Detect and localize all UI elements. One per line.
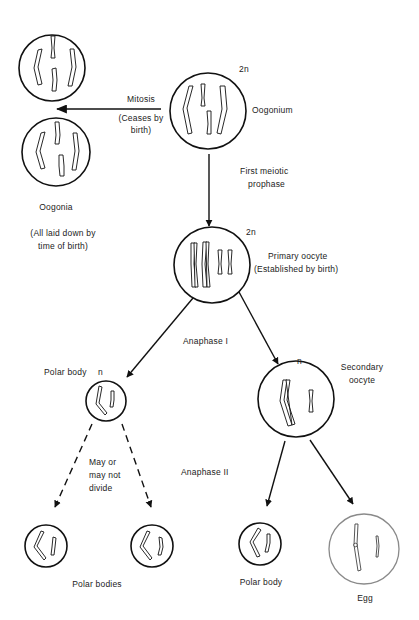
oogonium-label: Oogonium bbox=[252, 104, 293, 117]
secondary-oocyte-ploidy: n bbox=[297, 355, 302, 368]
egg-label: Egg bbox=[357, 592, 373, 605]
oogonia-cell-bottom bbox=[22, 118, 90, 186]
may-not-divide-line1: May or bbox=[89, 456, 116, 469]
mitosis-label: Mitosis bbox=[127, 93, 155, 106]
chromosome-icon bbox=[140, 531, 163, 560]
primary-oocyte-note: (Established by birth) bbox=[254, 263, 338, 276]
polar-body-cell-right bbox=[131, 525, 173, 567]
primary-oocyte-ploidy: 2n bbox=[246, 226, 256, 239]
oogonia-note-line1: (All laid down by bbox=[30, 227, 95, 240]
meiotic-prophase-label-line2: prophase bbox=[248, 178, 285, 191]
chromosome-icon bbox=[191, 242, 232, 287]
chromosome-icon bbox=[183, 84, 227, 134]
anaphase-2-arrow-right bbox=[310, 440, 353, 504]
polar-bodies-label: Polar bodies bbox=[72, 578, 122, 591]
primary-oocyte-label: Primary oocyte bbox=[268, 250, 327, 263]
anaphase-1-label: Anaphase I bbox=[183, 335, 228, 348]
chromosome-icon bbox=[250, 528, 270, 557]
may-not-divide-line2: may not bbox=[89, 469, 121, 482]
oogonia-note-line2: time of birth) bbox=[38, 240, 88, 253]
anaphase-2-label: Anaphase II bbox=[181, 466, 229, 479]
polar-body-division-arrow-left bbox=[55, 424, 92, 507]
chromosome-icon bbox=[34, 531, 56, 560]
secondary-oocyte-label-line2: oocyte bbox=[349, 374, 375, 387]
chromosome-icon bbox=[280, 380, 313, 426]
oogonium-ploidy: 2n bbox=[239, 63, 249, 76]
second-polar-body-cell bbox=[239, 523, 281, 565]
oogonia-cell-top bbox=[19, 35, 85, 101]
anaphase-1-arrow-right bbox=[239, 292, 278, 364]
chromosome-icon bbox=[96, 386, 114, 415]
oogonia-label: Oogonia bbox=[39, 201, 73, 214]
anaphase-2-arrow-left bbox=[267, 441, 285, 506]
may-not-divide-line3: divide bbox=[89, 482, 112, 495]
chromosome-icon bbox=[354, 524, 379, 571]
secondary-oocyte-cell bbox=[258, 361, 334, 437]
primary-oocyte-cell bbox=[174, 227, 250, 303]
oogenesis-diagram bbox=[0, 0, 419, 620]
chromosome-icon bbox=[36, 122, 79, 176]
mitosis-note-line2: birth) bbox=[131, 124, 152, 137]
polar-body-division-arrow-right bbox=[122, 424, 151, 507]
second-polar-body-label: Polar body bbox=[240, 576, 283, 589]
oogonium-cell bbox=[170, 73, 246, 149]
first-polar-body-ploidy: n bbox=[98, 366, 103, 379]
secondary-oocyte-label-line1: Secondary bbox=[341, 361, 383, 374]
chromosome-icon bbox=[34, 36, 76, 91]
first-polar-body-cell bbox=[86, 381, 126, 421]
egg-cell bbox=[329, 514, 399, 584]
meiotic-prophase-label-line1: First meiotic bbox=[240, 165, 288, 178]
first-polar-body-label: Polar body bbox=[44, 366, 87, 379]
polar-body-cell-left bbox=[25, 525, 67, 567]
